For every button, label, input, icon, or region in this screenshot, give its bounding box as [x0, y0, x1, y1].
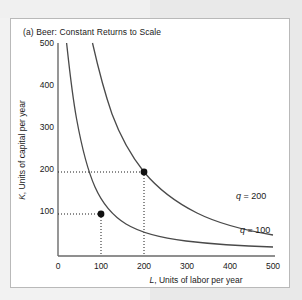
x-tick-label-400: 400	[223, 261, 237, 271]
x-tick-label-500: 500	[266, 261, 280, 271]
data-point-q200	[141, 169, 148, 176]
y-tick-label-300: 300	[40, 122, 54, 132]
y-tick-label-100: 100	[40, 206, 54, 216]
y-tick-label-400: 400	[40, 80, 54, 90]
x-tick-label-100: 100	[94, 261, 108, 271]
data-point-q100	[98, 211, 105, 218]
curve-label-q100: q = 100	[240, 225, 270, 235]
y-axis-title-rest: , Units of capital per year	[17, 100, 27, 194]
y-axis-title: K, Units of capital per year	[17, 100, 27, 200]
isoquant-curve-q200	[93, 43, 274, 235]
figure-panel: (a) Beer: Constant Returns to Scale 500 …	[10, 18, 290, 288]
x-tick-label-0: 0	[56, 261, 61, 271]
curve-label-q100-rest: = 100	[245, 225, 270, 235]
curve-label-q200: q = 200	[236, 191, 266, 201]
x-axis-title: L, Units of labor per year	[149, 275, 242, 285]
curve-label-q200-rest: = 200	[241, 191, 266, 201]
x-tick-label-200: 200	[137, 261, 151, 271]
y-tick-label-200: 200	[40, 164, 54, 174]
isoquant-curve-q100	[67, 43, 273, 247]
x-axis-title-rest: , Units of labor per year	[154, 275, 243, 285]
svg-text:K, Units of capital per year: K, Units of capital per year	[17, 100, 27, 200]
isoquant-chart: 500 400 300 200 100 0 100 200 300 400 50…	[11, 19, 289, 287]
x-tick-label-300: 300	[180, 261, 194, 271]
y-tick-label-500: 500	[40, 38, 54, 48]
